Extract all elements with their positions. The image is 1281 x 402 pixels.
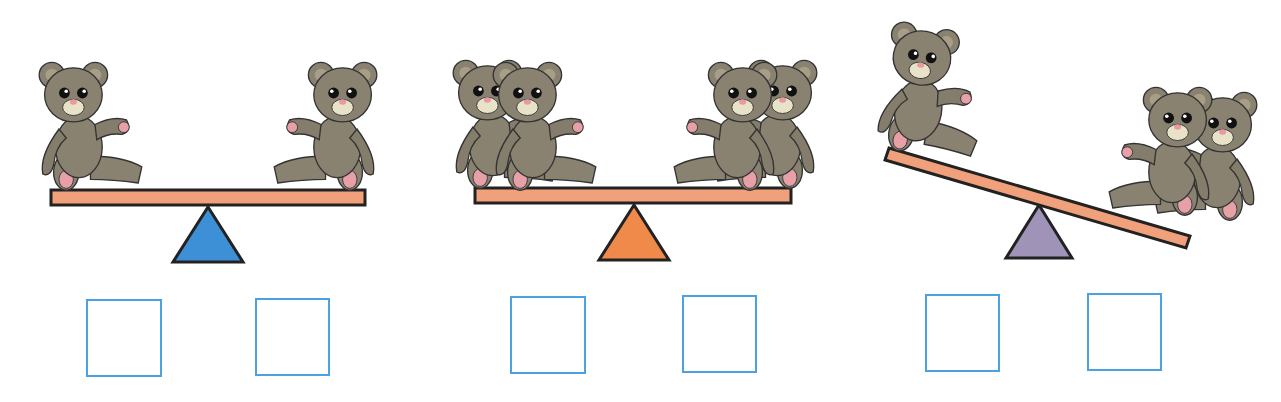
answer-box-2-left[interactable] xyxy=(510,296,586,374)
teddy-bear-icon xyxy=(872,20,995,164)
seesaw-scene-3 xyxy=(872,20,1257,258)
fulcrum-blue xyxy=(173,207,243,262)
answer-box-1-left[interactable] xyxy=(86,299,162,377)
seesaw-scene-2 xyxy=(453,60,817,260)
teddy-bear-icon xyxy=(1109,87,1212,215)
teddy-bear-icon xyxy=(39,62,142,190)
fulcrum-orange xyxy=(599,205,669,260)
answer-box-2-right[interactable] xyxy=(682,295,757,373)
seesaw-scene-1 xyxy=(39,62,377,262)
answer-box-3-left[interactable] xyxy=(925,294,1000,372)
seesaw-plank xyxy=(51,190,365,205)
answer-box-3-right[interactable] xyxy=(1087,293,1162,371)
answer-box-1-right[interactable] xyxy=(255,298,330,376)
teddy-bear-icon xyxy=(274,62,377,190)
